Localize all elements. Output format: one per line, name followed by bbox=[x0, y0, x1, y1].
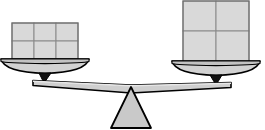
left-block-r2c3 bbox=[56, 41, 78, 59]
right-block-group bbox=[183, 1, 249, 62]
balance-scale-figure bbox=[0, 0, 265, 130]
left-block-r1c2 bbox=[34, 23, 56, 41]
fulcrum-triangle bbox=[111, 87, 151, 128]
left-block-r2c1 bbox=[12, 41, 34, 59]
left-pan-assembly bbox=[1, 23, 89, 83]
right-block-r1c1 bbox=[183, 1, 216, 31]
right-block-r2c2 bbox=[216, 31, 249, 62]
left-block-r2c2 bbox=[34, 41, 56, 59]
right-pan-assembly bbox=[172, 1, 260, 85]
balance-scale-illustration bbox=[0, 0, 265, 130]
right-pan-rim bbox=[172, 61, 260, 66]
left-block-r1c1 bbox=[12, 23, 34, 41]
right-block-r2c1 bbox=[183, 31, 216, 62]
right-block-r1c2 bbox=[216, 1, 249, 31]
left-block-r1c3 bbox=[56, 23, 78, 41]
left-block-group bbox=[12, 23, 78, 59]
left-pan-rim bbox=[1, 59, 89, 64]
